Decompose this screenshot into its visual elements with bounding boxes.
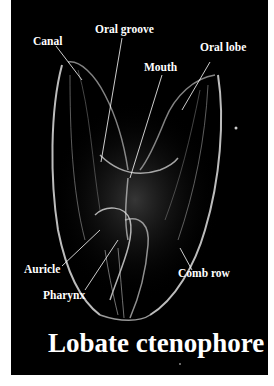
figure-title: Lobate ctenophore <box>48 330 264 357</box>
label-pharynx: Pharynx <box>43 290 85 302</box>
label-mouth: Mouth <box>144 62 177 74</box>
label-oral-lobe: Oral lobe <box>200 42 246 54</box>
label-auricle: Auricle <box>24 264 60 276</box>
label-comb-row: Comb row <box>178 268 230 280</box>
label-canal: Canal <box>33 36 62 48</box>
label-oral-groove: Oral groove <box>95 24 154 36</box>
